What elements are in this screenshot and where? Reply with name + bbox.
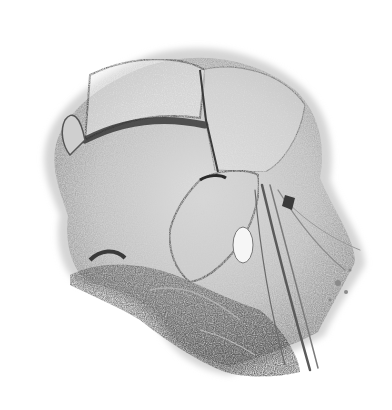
anatomical-illustration: [0, 0, 392, 410]
illustration-canvas: [0, 0, 392, 410]
